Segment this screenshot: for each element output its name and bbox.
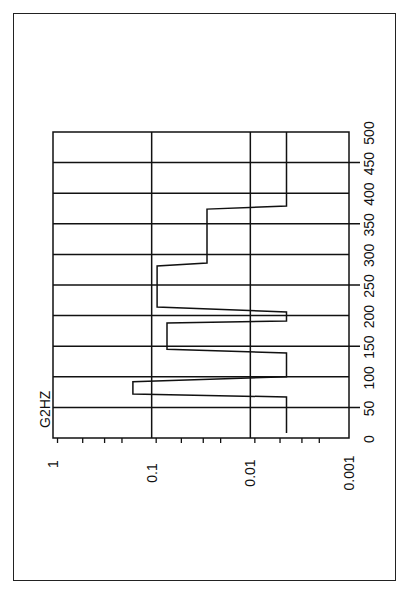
x-tick-label-100: 100 xyxy=(361,366,377,390)
axis-labels: 05010015020025030035040045050010.10.010.… xyxy=(45,121,377,490)
x-tick-label-150: 150 xyxy=(361,335,377,359)
x-tick-label-300: 300 xyxy=(361,244,377,268)
y-tick-label-1: 1 xyxy=(45,460,61,468)
x-tick-label-50: 50 xyxy=(361,400,377,416)
x-tick-label-400: 400 xyxy=(361,182,377,206)
gridlines xyxy=(53,132,360,438)
chart-plot: 05010015020025030035040045050010.10.010.… xyxy=(0,0,410,591)
y-tick-label-0.1: 0.1 xyxy=(144,463,160,483)
y-tick-label-0.01: 0.01 xyxy=(242,459,258,486)
x-tick-label-0: 0 xyxy=(361,435,377,443)
x-tick-label-500: 500 xyxy=(361,121,377,145)
series-label: G2HZ xyxy=(37,390,53,428)
x-tick-label-200: 200 xyxy=(361,305,377,329)
x-tick-label-250: 250 xyxy=(361,274,377,298)
y-tick-label-0.001: 0.001 xyxy=(341,455,357,490)
x-tick-label-350: 350 xyxy=(361,213,377,237)
x-tick-label-450: 450 xyxy=(361,152,377,176)
series-line-g2hz xyxy=(133,132,287,433)
